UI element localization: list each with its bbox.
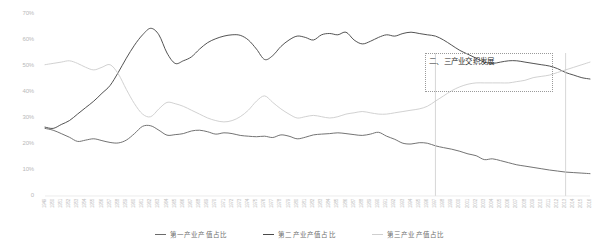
y-axis-tick-0: 0 bbox=[12, 192, 34, 198]
x-axis-tick-1976: 1976 bbox=[262, 199, 267, 208]
y-axis-tick-60: 60% bbox=[12, 36, 34, 42]
x-axis-tick-1996: 1996 bbox=[425, 199, 430, 208]
x-axis-tick-1963: 1963 bbox=[156, 199, 161, 208]
x-axis-tick-1980: 1980 bbox=[295, 199, 300, 208]
x-axis-tick-2013: 2013 bbox=[563, 199, 568, 208]
y-axis-tick-40: 40% bbox=[12, 88, 34, 94]
x-axis-tick-1964: 1964 bbox=[165, 199, 170, 208]
x-axis-tick-1990: 1990 bbox=[376, 199, 381, 208]
x-axis-tick-1978: 1978 bbox=[278, 199, 283, 208]
x-axis-tick-1967: 1967 bbox=[189, 199, 194, 208]
x-axis-tick-1954: 1954 bbox=[83, 199, 88, 208]
legend-item-3[interactable]: 第三产业产值占比 bbox=[372, 229, 445, 239]
x-axis-tick-2001: 2001 bbox=[466, 199, 471, 208]
x-axis-tick-2000: 2000 bbox=[457, 199, 462, 208]
annotation-callout-label: 二、三产业交织发展 bbox=[429, 55, 495, 66]
y-axis-tick-30: 30% bbox=[12, 114, 34, 120]
x-axis-tick-1957: 1957 bbox=[108, 199, 113, 208]
series-line-1 bbox=[45, 125, 590, 173]
x-axis-tick-1953: 1953 bbox=[75, 199, 80, 208]
x-axis-tick-2007: 2007 bbox=[514, 199, 519, 208]
x-axis-tick-1968: 1968 bbox=[197, 199, 202, 208]
legend-label: 第一产业产值占比 bbox=[170, 229, 228, 239]
x-axis-tick-1966: 1966 bbox=[181, 199, 186, 208]
legend-swatch-icon bbox=[155, 234, 166, 235]
x-axis-tick-2016: 2016 bbox=[588, 199, 593, 208]
x-axis-tick-1951: 1951 bbox=[59, 199, 64, 208]
x-axis-tick-2002: 2002 bbox=[474, 199, 479, 208]
x-axis-tick-1981: 1981 bbox=[303, 199, 308, 208]
x-axis-tick-1987: 1987 bbox=[352, 199, 357, 208]
x-axis-tick-1974: 1974 bbox=[246, 199, 251, 208]
series-line-2 bbox=[45, 28, 590, 128]
x-axis-tick-2011: 2011 bbox=[547, 199, 552, 208]
x-axis-tick-1959: 1959 bbox=[124, 199, 129, 208]
x-axis-tick-2015: 2015 bbox=[579, 199, 584, 208]
x-axis-tick-2010: 2010 bbox=[539, 199, 544, 208]
x-axis-tick-1994: 1994 bbox=[409, 199, 414, 208]
x-axis-tick-1965: 1965 bbox=[173, 199, 178, 208]
x-axis-tick-1988: 1988 bbox=[360, 199, 365, 208]
x-axis-tick-2009: 2009 bbox=[531, 199, 536, 208]
x-axis-tick-1971: 1971 bbox=[222, 199, 227, 208]
x-axis-tick-1972: 1972 bbox=[230, 199, 235, 208]
y-axis-tick-10: 10% bbox=[12, 166, 34, 172]
legend-swatch-icon bbox=[372, 234, 383, 235]
x-axis-tick-1998: 1998 bbox=[441, 199, 446, 208]
x-axis-tick-1955: 1955 bbox=[91, 199, 96, 208]
x-axis-tick-1970: 1970 bbox=[213, 199, 218, 208]
y-axis-tick-50: 50% bbox=[12, 62, 34, 68]
legend-label: 第三产业产值占比 bbox=[387, 229, 445, 239]
x-axis-tick-2014: 2014 bbox=[571, 199, 576, 208]
x-axis-tick-1979: 1979 bbox=[287, 199, 292, 208]
x-axis-tick-1997: 1997 bbox=[433, 199, 438, 208]
x-axis-tick-1983: 1983 bbox=[319, 199, 324, 208]
x-axis-tick-1960: 1960 bbox=[132, 199, 137, 208]
x-axis-tick-1958: 1958 bbox=[116, 199, 121, 208]
x-axis-tick-1962: 1962 bbox=[148, 199, 153, 208]
y-axis-tick-70: 70% bbox=[12, 10, 34, 16]
x-axis-tick-2005: 2005 bbox=[498, 199, 503, 208]
x-axis-tick-1993: 1993 bbox=[401, 199, 406, 208]
x-axis-tick-1950: 1950 bbox=[51, 199, 56, 208]
x-axis-tick-1989: 1989 bbox=[368, 199, 373, 208]
chart-container: 010%20%30%40%50%60%70% 19491950195119521… bbox=[0, 0, 599, 243]
x-axis-tick-2003: 2003 bbox=[482, 199, 487, 208]
annotation-guide-lines bbox=[435, 53, 565, 196]
legend-label: 第二产业产值占比 bbox=[278, 229, 336, 239]
x-axis-tick-1975: 1975 bbox=[254, 199, 259, 208]
legend-swatch-icon bbox=[263, 234, 274, 235]
x-axis-tick-1977: 1977 bbox=[270, 199, 275, 208]
x-axis-tick-1952: 1952 bbox=[67, 199, 72, 208]
x-axis-tick-1984: 1984 bbox=[327, 199, 332, 208]
x-axis-tick-1961: 1961 bbox=[140, 199, 145, 208]
x-axis-tick-2004: 2004 bbox=[490, 199, 495, 208]
y-axis-tick-20: 20% bbox=[12, 140, 34, 146]
x-axis-tick-2008: 2008 bbox=[523, 199, 528, 208]
x-axis-tick-1956: 1956 bbox=[100, 199, 105, 208]
x-axis-tick-1969: 1969 bbox=[205, 199, 210, 208]
x-axis-tick-1999: 1999 bbox=[449, 199, 454, 208]
x-axis-tick-1995: 1995 bbox=[417, 199, 422, 208]
x-axis-tick-1986: 1986 bbox=[344, 199, 349, 208]
chart-legend: 第一产业产值占比第二产业产值占比第三产业产值占比 bbox=[0, 229, 599, 239]
x-axis-tick-1985: 1985 bbox=[335, 199, 340, 208]
x-axis-tick-2012: 2012 bbox=[555, 199, 560, 208]
x-axis-tick-2006: 2006 bbox=[506, 199, 511, 208]
x-axis-tick-1949: 1949 bbox=[43, 199, 48, 208]
series-line-3 bbox=[45, 61, 590, 122]
legend-item-2[interactable]: 第二产业产值占比 bbox=[263, 229, 336, 239]
x-axis-tick-1991: 1991 bbox=[384, 199, 389, 208]
series-layer bbox=[45, 28, 590, 173]
x-axis-tick-1982: 1982 bbox=[311, 199, 316, 208]
legend-item-1[interactable]: 第一产业产值占比 bbox=[155, 229, 228, 239]
x-axis-tick-1992: 1992 bbox=[392, 199, 397, 208]
x-axis-tick-1973: 1973 bbox=[238, 199, 243, 208]
